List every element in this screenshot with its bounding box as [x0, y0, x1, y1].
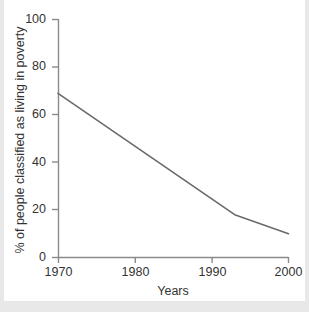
page-background: 100 80 60 40 20 0 1970 1980 1990 2000 Ye…: [0, 0, 309, 312]
x-tick-label-1970: 1970: [33, 266, 84, 279]
x-tick-label-1980: 1980: [110, 266, 161, 279]
x-axis-title: Years: [58, 284, 288, 298]
y-axis-ticks: [52, 20, 58, 258]
poverty-line-chart: 100 80 60 40 20 0 1970 1980 1990 2000 Ye…: [0, 0, 309, 312]
poverty-trend-line: [58, 93, 289, 233]
x-tick-label-2000: 2000: [263, 266, 309, 279]
x-tick-label-1990: 1990: [187, 266, 238, 279]
y-axis-title: % of people classified as living in pove…: [13, 15, 27, 265]
